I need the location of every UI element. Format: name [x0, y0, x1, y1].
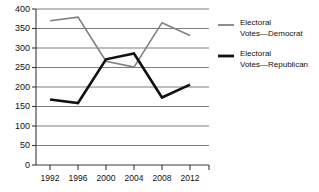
- y-gridlines: [36, 9, 209, 146]
- series-line-republican: [50, 53, 190, 103]
- legend-label-republican-line2: Votes—Republican: [240, 60, 308, 70]
- x-axis-tick-label: 1992: [37, 174, 63, 183]
- y-axis: [32, 9, 36, 165]
- x-axis-tick-label: 2004: [121, 174, 147, 183]
- x-axis-tick-label: 2008: [149, 174, 175, 183]
- x-axis-tick-label: 2012: [177, 174, 203, 183]
- legend-label-republican-line1: Electoral: [240, 49, 271, 59]
- x-axis-tick-label: 2000: [93, 174, 119, 183]
- x-axis-tick-label: 1996: [65, 174, 91, 183]
- legend-label-democrat-line2: Votes—Democrat: [240, 29, 303, 39]
- series-line-democrat: [50, 17, 190, 67]
- legend-label-democrat-line1: Electoral: [240, 18, 271, 28]
- electoral-votes-line-chart: 400 350 300 250 200 150 100 50 0: [0, 0, 319, 192]
- x-axis: [36, 165, 209, 170]
